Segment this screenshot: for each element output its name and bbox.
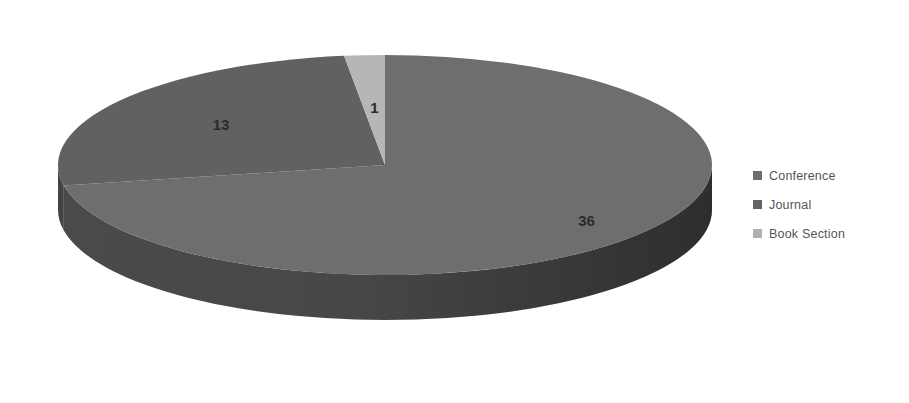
legend-swatch-icon xyxy=(753,229,762,238)
pie-chart-figure: 36131 Conference Journal Book Section xyxy=(0,0,909,403)
pie-slice-value-label: 1 xyxy=(370,99,378,116)
legend-item-label: Book Section xyxy=(769,227,845,241)
legend-swatch-icon xyxy=(753,171,762,180)
legend-item-journal[interactable]: Journal xyxy=(753,190,903,219)
pie-slice-value-label: 13 xyxy=(213,116,230,133)
chart-legend: Conference Journal Book Section xyxy=(753,161,903,248)
legend-item-label: Conference xyxy=(769,169,836,183)
legend-swatch-icon xyxy=(753,200,762,209)
pie-top-slices xyxy=(58,55,712,275)
legend-item-label: Journal xyxy=(769,198,811,212)
legend-item-book-section[interactable]: Book Section xyxy=(753,219,903,248)
pie-slice-value-label: 36 xyxy=(578,212,595,229)
legend-item-conference[interactable]: Conference xyxy=(753,161,903,190)
